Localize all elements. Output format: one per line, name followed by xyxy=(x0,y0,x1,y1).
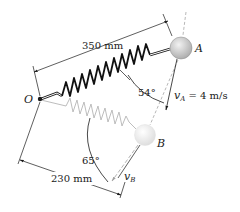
velocity-b-label: vB xyxy=(124,170,135,184)
angle-b-label: 65° xyxy=(82,155,100,166)
length-a-label: 350 mm xyxy=(82,40,124,51)
ball-b-label: B xyxy=(156,137,165,150)
dashed-line-a xyxy=(183,12,186,35)
angle-a-label: 54° xyxy=(138,87,156,98)
spring-mass-diagram: 350 mm 54° vA = 4 m/s O A B vB 65° xyxy=(0,0,240,212)
ball-a xyxy=(170,37,192,59)
velocity-a-label: vA = 4 m/s xyxy=(174,89,228,103)
pivot-label: O xyxy=(24,93,33,106)
ball-b xyxy=(135,125,156,146)
pivot-o xyxy=(38,97,42,101)
length-b-label: 230 mm xyxy=(51,173,93,184)
ball-a-label: A xyxy=(194,42,203,55)
